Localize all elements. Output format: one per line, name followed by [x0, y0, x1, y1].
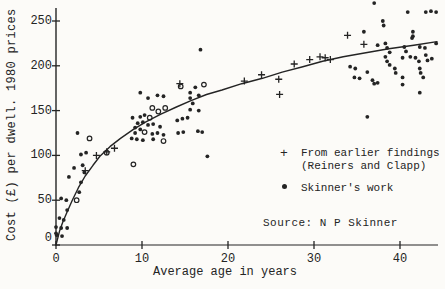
data-point-dot — [162, 94, 166, 98]
data-point-dot — [205, 154, 209, 158]
data-point-dot — [150, 132, 154, 136]
data-point-dot — [175, 119, 179, 123]
data-point-dot — [65, 208, 69, 212]
data-point-dot — [362, 30, 366, 34]
data-point-dot — [200, 130, 204, 134]
data-point-circle — [163, 106, 168, 111]
data-point-dot — [401, 76, 405, 80]
data-point-dot — [197, 109, 201, 113]
source-note: Source: N P Skinner — [263, 217, 398, 229]
data-point-dot — [385, 46, 389, 50]
data-point-dot — [181, 117, 185, 121]
data-point-dot — [402, 45, 406, 49]
data-point-dot — [385, 59, 389, 63]
data-point-dot — [382, 24, 386, 28]
data-point-dot — [358, 76, 362, 80]
data-point-dot — [133, 126, 137, 130]
data-point-dot — [426, 59, 430, 63]
data-point-dot — [424, 10, 428, 14]
data-point-dot — [84, 151, 88, 155]
data-point-dot — [417, 59, 421, 63]
data-point-dot — [65, 226, 69, 230]
data-point-dot — [136, 121, 140, 125]
scatter-chart-figure: Cost (£) per dwell. 1980 prices Average … — [0, 0, 445, 289]
data-point-dot — [383, 42, 387, 46]
x-tick-label: 10 — [125, 253, 159, 265]
data-point-plus — [344, 32, 351, 39]
data-point-plus — [327, 56, 334, 63]
data-point-circle — [161, 139, 166, 144]
data-point-dot — [430, 57, 434, 61]
data-point-dot — [372, 1, 376, 5]
data-point-dot — [188, 108, 192, 112]
data-point-dot — [401, 56, 405, 60]
legend-label-skinners-work: Skinner's work — [301, 182, 393, 194]
data-point-dot — [410, 36, 414, 40]
data-point-dot — [72, 166, 76, 170]
data-point-dot — [406, 10, 410, 14]
data-point-plus — [317, 53, 324, 60]
data-point-dot — [421, 76, 425, 80]
data-point-dot — [77, 190, 81, 194]
data-point-dot — [181, 130, 185, 134]
data-point-dot — [418, 91, 422, 95]
y-tick-label: 250 — [22, 15, 52, 27]
data-point-dot — [372, 82, 376, 86]
legend-label-earlier-findings-line1: From earlier findings — [301, 147, 440, 159]
fit-curve — [56, 42, 437, 245]
x-tick-label: 30 — [297, 253, 331, 265]
data-point-dot — [59, 197, 63, 201]
data-point-dot — [82, 171, 86, 175]
data-point-dot — [434, 10, 438, 14]
y-tick-label: 200 — [22, 60, 52, 72]
data-point-circle — [142, 130, 147, 135]
data-point-circle — [74, 198, 79, 203]
data-point-dot — [424, 53, 428, 57]
data-point-dot — [188, 91, 192, 95]
data-point-dot — [196, 129, 200, 133]
data-point-dot — [138, 128, 142, 132]
data-point-dot — [138, 91, 142, 95]
data-point-dot — [199, 48, 203, 52]
data-point-circle — [202, 82, 207, 87]
data-point-dot — [67, 175, 71, 179]
data-point-dot — [348, 65, 352, 69]
data-point-dot — [394, 71, 398, 75]
data-point-dot — [162, 133, 166, 137]
data-point-dot — [414, 56, 418, 60]
data-point-dot — [131, 116, 135, 120]
data-point-dot — [376, 81, 380, 85]
data-point-plus — [360, 41, 367, 48]
data-point-dot — [176, 131, 180, 135]
data-point-dot — [411, 30, 415, 34]
data-point-dot — [197, 93, 201, 97]
data-point-dot — [376, 43, 380, 47]
y-axis-title: Cost (£) per dwell. 1980 prices — [5, 10, 19, 240]
plus-marker-icon: + — [278, 147, 290, 160]
data-point-dot — [434, 42, 438, 46]
y-tick-label: 50 — [22, 194, 52, 206]
data-point-dot — [156, 93, 160, 97]
data-point-dot — [388, 63, 392, 67]
data-point-dot — [193, 85, 197, 89]
data-point-circle — [131, 162, 136, 167]
data-point-plus — [275, 76, 282, 83]
data-point-dot — [54, 225, 58, 229]
data-point-dot — [60, 234, 64, 238]
data-point-dot — [191, 102, 195, 106]
dot-marker-icon — [282, 184, 287, 189]
data-point-dot — [383, 55, 387, 59]
data-point-dot — [79, 153, 83, 157]
data-point-dot — [59, 226, 63, 230]
data-point-circle — [150, 106, 155, 111]
data-point-dot — [133, 131, 137, 135]
data-point-dot — [371, 78, 375, 82]
x-axis-title: Average age in years — [130, 265, 320, 279]
data-point-dot — [188, 96, 192, 100]
data-point-circle — [87, 136, 92, 141]
data-point-dot — [186, 116, 190, 120]
data-point-dot — [151, 137, 155, 141]
data-point-dot — [156, 131, 160, 135]
data-point-dot — [423, 46, 427, 50]
data-point-dot — [381, 19, 385, 23]
